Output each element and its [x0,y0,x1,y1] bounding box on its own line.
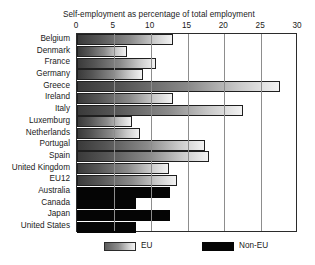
bar [77,175,177,186]
y-tick-label: Greece [43,81,70,91]
bar [77,140,205,151]
gridline [114,34,115,231]
bars-layer [77,34,296,231]
y-tick-label: Australia [38,186,70,196]
y-tick-label: France [45,57,70,67]
x-tick-label: 20 [219,21,228,31]
y-tick-label: EU12 [50,174,70,184]
bar [77,163,169,174]
y-tick-label: Canada [41,198,70,208]
legend-item[interactable]: EU [104,241,152,251]
y-axis-category-labels: BelgiumDenmarkFranceGermanyGreeceIreland… [0,33,73,232]
bar [77,198,136,209]
chart-container: Self-employment as percentage of total e… [0,0,315,265]
x-axis-tick-labels: 051015202530 [0,21,315,32]
bar [77,34,173,45]
bar [77,116,132,127]
y-tick-label: Germany [36,69,70,79]
y-tick-label: Denmark [37,46,70,56]
bar [77,128,140,139]
legend-item[interactable]: Non-EU [202,241,268,251]
x-tick-label: 15 [182,21,191,31]
gridline [188,34,189,231]
x-tick-label: 25 [256,21,265,31]
bar [77,46,127,57]
y-tick-label: Japan [48,209,70,219]
gridline [261,34,262,231]
chart-title: Self-employment as percentage of total e… [63,10,303,20]
legend-label: Non-EU [239,241,268,251]
bar [77,222,136,233]
x-tick-label: 0 [74,21,79,31]
chart-legend: EUNon-EU [76,241,297,257]
legend-swatch [104,242,136,251]
gridline [151,34,152,231]
legend-swatch [202,242,234,251]
y-tick-label: Belgium [40,34,70,44]
bar [77,69,143,80]
bar [77,210,170,221]
x-tick-label: 30 [292,21,301,31]
bar [77,81,280,92]
y-tick-label: Italy [55,104,70,114]
x-tick-label: 5 [111,21,116,31]
bar [77,58,156,69]
y-tick-label: Portugal [40,139,71,149]
y-tick-label: United Kingdom [12,163,70,173]
x-tick-label: 10 [145,21,154,31]
plot-area [76,33,297,232]
gridline [224,34,225,231]
bar [77,93,173,104]
y-tick-label: Spain [49,151,70,161]
y-tick-label: Netherlands [26,128,70,138]
y-tick-label: Luxemburg [29,116,70,126]
bar [77,105,243,116]
y-tick-label: United States [21,221,70,231]
bar [77,151,209,162]
bar [77,187,170,198]
y-tick-label: Ireland [45,92,70,102]
legend-label: EU [141,241,152,251]
